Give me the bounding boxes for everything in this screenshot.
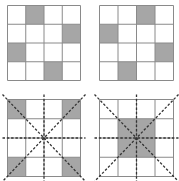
grid-bottom-left	[0, 92, 90, 181]
shaded-cell	[118, 62, 137, 81]
grid-bottom-right	[92, 92, 179, 181]
shaded-cell	[137, 6, 156, 25]
grid-top-left-svg	[7, 5, 81, 81]
shaded-cell	[26, 6, 44, 25]
grid-bottom-right-svg	[92, 92, 179, 181]
shaded-cell	[8, 43, 26, 62]
grid-bottom-left-svg	[0, 92, 90, 181]
grid-top-right	[99, 5, 174, 81]
shaded-cell	[44, 62, 62, 81]
shaded-cell	[155, 43, 174, 62]
shaded-cell	[100, 24, 119, 43]
shaded-cell	[62, 24, 80, 43]
grid-top-left	[7, 5, 81, 81]
grid-top-right-svg	[99, 5, 174, 81]
